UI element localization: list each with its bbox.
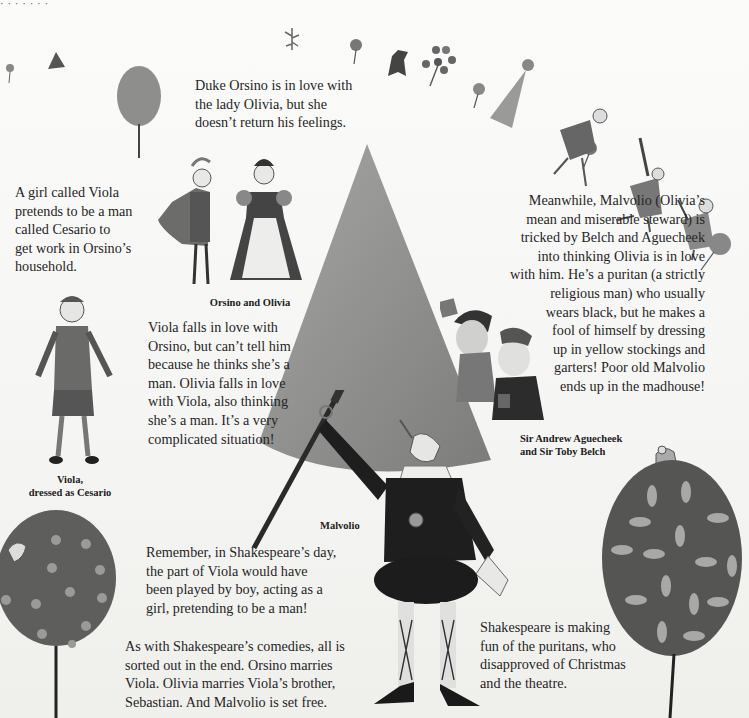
- puritans-paragraph: Shakespeare is making fun of the puritan…: [480, 618, 626, 692]
- small-cone-tree-icon: [486, 58, 536, 130]
- duke-orsino-paragraph: Duke Orsino is in love with the lady Oli…: [195, 76, 352, 132]
- top-cutoff-text: · · · · · · ·: [0, 0, 749, 10]
- orsino-and-olivia-illustration: [152, 148, 312, 298]
- lollipop-icon: [348, 38, 364, 64]
- viola-cesario-illustration: [14, 292, 134, 468]
- lollipop-icon: [470, 82, 486, 108]
- orsino-olivia-caption: Orsino and Olivia: [190, 296, 310, 309]
- small-lollipop-icon: [3, 62, 17, 84]
- dotted-tree-illustration: [0, 508, 122, 718]
- remember-paragraph: Remember, in Shakespeare’s day, the part…: [146, 543, 336, 617]
- crown-sculpture-icon: [384, 46, 412, 80]
- viola-love-paragraph: Viola falls in love with Orsino, but can…: [148, 318, 291, 448]
- sprig-icon: [282, 26, 302, 52]
- malvolio-caption: Malvolio: [320, 519, 380, 532]
- berry-branch-icon: [418, 44, 458, 88]
- viola-caption: Viola, dressed as Cesario: [2, 473, 138, 499]
- book-page: · · · · · · ·: [0, 0, 749, 718]
- comedies-paragraph: As with Shakespeare’s comedies, all is s…: [125, 637, 345, 711]
- malvolio-paragraph: Meanwhile, Malvolio (Olivia’s mean and m…: [385, 191, 705, 396]
- small-cone-icon: [46, 50, 68, 72]
- round-tree-icon: [114, 64, 164, 158]
- belch-aguecheek-caption: Sir Andrew Aguecheek and Sir Toby Belch: [520, 432, 670, 458]
- viola-intro-paragraph: A girl called Viola pretends to be a man…: [15, 183, 132, 276]
